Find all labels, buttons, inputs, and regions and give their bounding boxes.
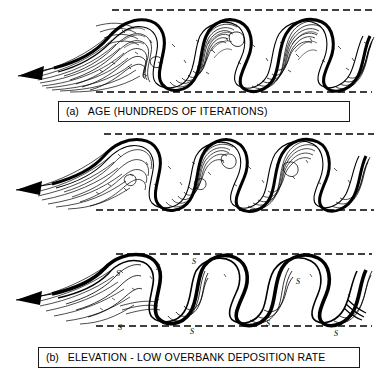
panel-a: (a) AGE (HUNDREDS OF ITERATIONS) — [0, 0, 381, 130]
panel-a-tag: (a) — [59, 106, 79, 117]
panel-a-diagram — [0, 0, 381, 101]
contour-tick-marks — [100, 270, 350, 310]
elevation-contours-upstream — [34, 152, 130, 209]
panel-b-diagram — [0, 128, 381, 220]
age-contours-loop-2 — [170, 24, 237, 87]
panel-c-diagram — [0, 248, 381, 336]
caption-box-a: (a) AGE (HUNDREDS OF ITERATIONS) — [58, 101, 350, 122]
panel-a-caption-text: AGE (HUNDREDS OF ITERATIONS) — [79, 106, 268, 117]
scroll-bars-upstream — [34, 36, 140, 92]
meander-belt-figure: (a) AGE (HUNDREDS OF ITERATIONS) — [0, 0, 381, 369]
panel-b: S S S S S S S S (b) ELEVATION - LOW OVER… — [0, 128, 381, 248]
panel-c: (c) ELEVATION - HIGH OVERBANK DEPOSITION… — [0, 248, 381, 369]
